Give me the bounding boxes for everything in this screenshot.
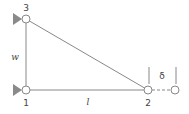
truss-diagram: 3 1 2 w l δ [0,0,189,114]
member-3-2 [26,19,148,90]
node-label-3: 3 [23,3,29,13]
node-2 [144,86,152,94]
node-label-1: 1 [23,98,29,108]
displacement-label-delta: δ [159,71,165,81]
node-1 [22,86,30,94]
member-label-l: l [87,97,90,107]
pin-support-icon-node-1 [13,84,22,96]
pin-support-icon-node-3 [13,13,22,25]
displaced-node [171,86,179,94]
node-label-2: 2 [145,98,151,108]
node-3 [22,15,30,23]
member-label-w: w [11,52,19,62]
